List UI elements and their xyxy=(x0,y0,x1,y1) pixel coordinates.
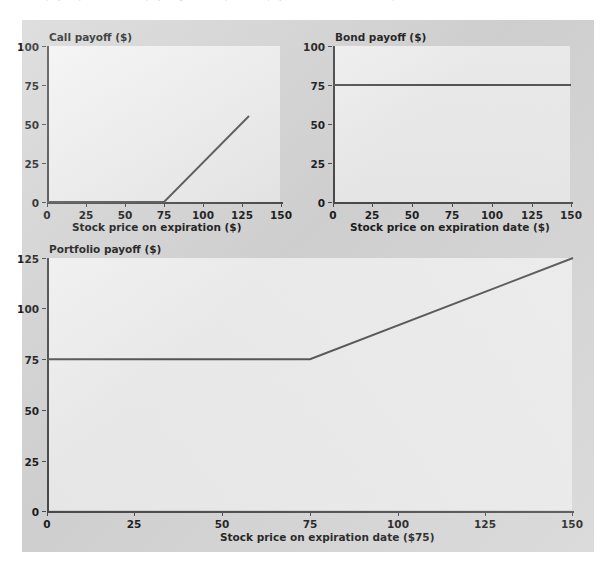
x-label-0: 0 xyxy=(329,209,336,221)
x-tick-75 xyxy=(310,512,311,516)
x-tick-100 xyxy=(203,203,204,207)
x-tick-100 xyxy=(398,512,399,516)
x-tick-25 xyxy=(372,203,373,207)
y-label-75: 75 xyxy=(14,80,39,92)
x-label-125: 125 xyxy=(231,209,253,221)
y-label-25: 25 xyxy=(14,158,39,170)
series-bond-payoff xyxy=(333,46,571,203)
x-tick-0 xyxy=(47,512,48,516)
x-axis-title-call-payoff: Stock price on expiration ($) xyxy=(72,221,241,233)
y-label-0: 0 xyxy=(14,506,39,518)
x-tick-0 xyxy=(333,203,334,207)
chart-title-portfolio-payoff: Portfolio payoff ($) xyxy=(49,243,161,255)
figure-panel: Call payoff ($) 100 75 50 25 0 0 25 50 7… xyxy=(22,20,594,552)
x-label-100: 100 xyxy=(481,209,503,221)
chart-portfolio-payoff: Portfolio payoff ($) 125 100 75 50 25 0 … xyxy=(22,235,594,552)
y-label-100: 100 xyxy=(14,303,39,315)
y-label-0: 0 xyxy=(300,197,325,209)
y-tick-50 xyxy=(42,124,46,125)
y-label-50: 50 xyxy=(300,119,325,131)
y-tick-25 xyxy=(42,461,46,462)
y-tick-100 xyxy=(328,46,332,47)
x-tick-75 xyxy=(452,203,453,207)
x-label-75: 75 xyxy=(157,209,172,221)
y-label-50: 50 xyxy=(14,405,39,417)
x-tick-50 xyxy=(125,203,126,207)
x-label-150: 150 xyxy=(561,518,583,530)
y-tick-0 xyxy=(328,202,332,203)
x-label-25: 25 xyxy=(365,209,380,221)
y-label-50: 50 xyxy=(14,119,39,131)
x-label-50: 50 xyxy=(405,209,420,221)
series-call-payoff xyxy=(47,46,280,203)
x-label-50: 50 xyxy=(118,209,133,221)
x-tick-50 xyxy=(222,512,223,516)
x-tick-125 xyxy=(242,203,243,207)
y-label-100: 100 xyxy=(14,41,39,53)
x-label-50: 50 xyxy=(215,518,230,530)
x-tick-125 xyxy=(532,203,533,207)
y-tick-75 xyxy=(42,359,46,360)
x-label-75: 75 xyxy=(303,518,318,530)
x-tick-125 xyxy=(485,512,486,516)
x-label-150: 150 xyxy=(270,209,292,221)
x-tick-150 xyxy=(571,203,572,207)
x-axis-title-bond-payoff: Stock price on expiration date ($) xyxy=(350,221,550,233)
chart-title-call-payoff: Call payoff ($) xyxy=(49,31,132,43)
y-label-25: 25 xyxy=(300,158,325,170)
y-tick-50 xyxy=(42,410,46,411)
x-tick-50 xyxy=(412,203,413,207)
x-label-100: 100 xyxy=(192,209,214,221)
y-tick-125 xyxy=(42,258,46,259)
series-portfolio-payoff xyxy=(47,258,573,511)
y-tick-100 xyxy=(42,46,46,47)
y-tick-0 xyxy=(42,511,46,512)
chart-bond-payoff: Bond payoff ($) 100 75 50 25 0 0 25 50 7… xyxy=(308,20,594,235)
y-tick-100 xyxy=(42,308,46,309)
x-axis-title-portfolio-payoff: Stock price on expiration date ($75) xyxy=(220,531,434,543)
x-label-25: 25 xyxy=(127,518,142,530)
x-label-0: 0 xyxy=(43,518,50,530)
x-label-25: 25 xyxy=(79,209,94,221)
y-label-75: 75 xyxy=(300,80,325,92)
x-tick-75 xyxy=(164,203,165,207)
chart-title-bond-payoff: Bond payoff ($) xyxy=(335,31,426,43)
y-label-100: 100 xyxy=(300,41,325,53)
x-tick-25 xyxy=(86,203,87,207)
x-label-0: 0 xyxy=(43,209,50,221)
y-label-0: 0 xyxy=(14,197,39,209)
y-tick-50 xyxy=(328,124,332,125)
y-tick-0 xyxy=(42,202,46,203)
x-label-75: 75 xyxy=(445,209,460,221)
x-label-150: 150 xyxy=(560,209,582,221)
cut-off-text-bleed: the call payoff plus the bond payoff giv… xyxy=(0,0,606,9)
x-tick-25 xyxy=(134,512,135,516)
x-tick-150 xyxy=(572,512,573,516)
x-tick-150 xyxy=(281,203,282,207)
bleed-text: the call payoff plus the bond payoff giv… xyxy=(8,0,418,1)
y-tick-25 xyxy=(328,163,332,164)
x-label-125: 125 xyxy=(521,209,543,221)
x-tick-0 xyxy=(47,203,48,207)
y-tick-75 xyxy=(328,85,332,86)
y-label-125: 125 xyxy=(14,253,39,265)
x-label-125: 125 xyxy=(474,518,496,530)
x-tick-100 xyxy=(492,203,493,207)
y-tick-25 xyxy=(42,163,46,164)
y-label-25: 25 xyxy=(14,456,39,468)
y-tick-75 xyxy=(42,85,46,86)
x-label-100: 100 xyxy=(387,518,409,530)
chart-call-payoff: Call payoff ($) 100 75 50 25 0 0 25 50 7… xyxy=(22,20,294,235)
y-label-75: 75 xyxy=(14,354,39,366)
